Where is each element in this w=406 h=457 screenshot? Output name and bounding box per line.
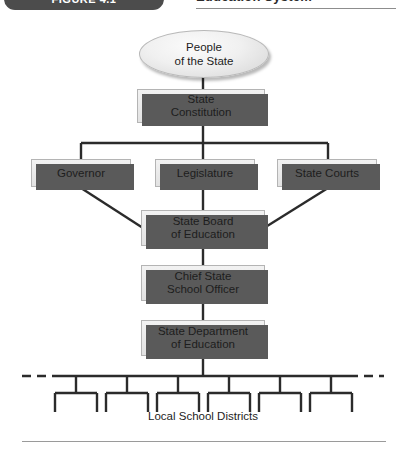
node-governor-label: Governor [53,167,109,180]
node-people-label: People of the State [175,40,234,68]
district-group [208,376,250,412]
node-board-label: State Board of Education [167,215,239,241]
district-group [106,376,148,412]
node-department-label: State Department of Education [154,325,252,351]
district-group [259,376,301,412]
node-state-department-of-education: State Department of Education [141,320,265,356]
local-school-districts-label: Local School Districts [0,410,406,422]
node-courts-label: State Courts [291,167,363,180]
node-legislature: Legislature [155,159,255,187]
district-group [55,376,97,412]
node-state-constitution: State Constitution [137,89,265,123]
node-governor: Governor [31,159,131,187]
district-group [157,376,199,412]
node-chief-label: Chief State School Officer [163,270,243,296]
node-people-of-the-state: People of the State [139,30,269,78]
node-chief-state-school-officer: Chief State School Officer [141,265,265,301]
node-state-courts: State Courts [277,159,377,187]
node-state-board-of-education: State Board of Education [141,210,265,246]
connector-courts-to-board [264,188,328,228]
node-constitution-label: State Constitution [167,93,236,119]
district-group [310,376,352,412]
connector-governor-to-board [81,188,143,228]
footer-divider [22,441,386,442]
figure-container: FIGURE 4.1 Education System [0,0,406,457]
node-legislature-label: Legislature [173,167,237,180]
